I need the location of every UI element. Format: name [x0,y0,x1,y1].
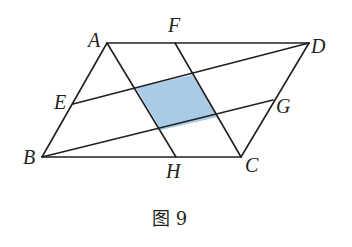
side-CD [241,43,309,157]
figure-caption: 图 9 [152,208,187,229]
label-F: F [167,14,181,36]
side-AB [42,43,107,157]
label-B: B [23,146,35,168]
label-D: D [310,35,326,57]
label-C: C [245,154,259,176]
label-H: H [165,160,182,182]
label-G: G [276,95,291,117]
shaded-quadrilateral [136,75,218,130]
label-E: E [53,91,66,113]
label-A: A [86,29,101,51]
diagram-canvas: A F D E G B H C 图 9 [0,0,352,247]
geometry-figure: A F D E G B H C 图 9 [0,0,352,247]
